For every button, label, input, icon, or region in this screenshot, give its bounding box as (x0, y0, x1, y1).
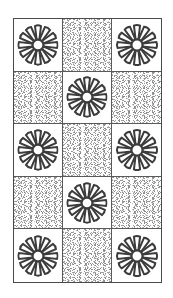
rosette-center-circle (131, 39, 142, 50)
rosette-flower-icon (115, 128, 157, 172)
cell-r4c2-rosette (63, 177, 112, 230)
rosette-center-circle (33, 39, 44, 50)
pattern-frame (13, 18, 162, 283)
rosette-flower-icon (66, 75, 107, 119)
rosette-flower-icon (66, 180, 107, 224)
cell-r3c1-rosette (14, 124, 63, 177)
cell-r4c1-stipple (14, 177, 63, 230)
cell-r1c2-stipple (63, 19, 112, 72)
cell-r1c1-rosette (14, 19, 63, 72)
rosette-center-circle (33, 250, 44, 261)
cell-r2c1-stipple (14, 72, 63, 125)
rosette-flower-icon (115, 23, 157, 67)
pattern-grid (14, 19, 161, 282)
rosette-flower-icon (17, 128, 58, 172)
rosette-center-circle (33, 145, 44, 156)
rosette-center-circle (131, 250, 142, 261)
cell-r4c3-stipple (112, 177, 161, 230)
rosette-flower-icon (115, 233, 157, 278)
cell-r3c3-rosette (112, 124, 161, 177)
cell-r5c3-rosette (112, 229, 161, 282)
rosette-center-circle (82, 92, 93, 103)
rosette-flower-icon (17, 233, 58, 278)
cell-r5c1-rosette (14, 229, 63, 282)
rosette-center-circle (131, 145, 142, 156)
page-root (0, 0, 173, 298)
rosette-center-circle (82, 197, 93, 208)
rosette-flower-icon (17, 23, 58, 67)
cell-r1c3-rosette (112, 19, 161, 72)
cell-r2c3-stipple (112, 72, 161, 125)
cell-r3c2-stipple (63, 124, 112, 177)
cell-r2c2-rosette (63, 72, 112, 125)
cell-r5c2-stipple (63, 229, 112, 282)
